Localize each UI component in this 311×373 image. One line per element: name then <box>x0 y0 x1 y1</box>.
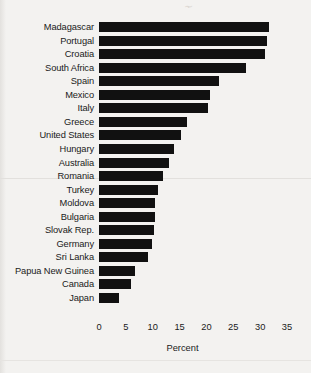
x-axis-title: Percent <box>0 343 311 353</box>
x-tick-label: 10 <box>148 322 158 333</box>
bar-row: Greece <box>0 116 311 129</box>
horizontal-bar-chart: MadagascarPortugalCroatiaSouth AfricaSpa… <box>0 0 311 373</box>
category-label: Slovak Rep. <box>0 224 94 237</box>
bar-row: Canada <box>0 278 311 291</box>
x-tick-label: 15 <box>174 322 184 333</box>
category-label: Mexico <box>0 89 94 102</box>
bar-row: Turkey <box>0 184 311 197</box>
bar <box>99 293 119 303</box>
bar <box>99 198 155 208</box>
category-label: Romania <box>0 170 94 183</box>
bar-row: Spain <box>0 75 311 88</box>
bar <box>99 76 219 86</box>
bar-row: Sri Lanka <box>0 251 311 264</box>
bar <box>99 252 148 262</box>
bar <box>99 225 154 235</box>
category-label: Spain <box>0 75 94 88</box>
bar-row: Australia <box>0 157 311 170</box>
bar-row: Italy <box>0 102 311 115</box>
bar <box>99 158 169 168</box>
category-label: Sri Lanka <box>0 251 94 264</box>
bar <box>99 117 187 127</box>
bar-row: Moldova <box>0 197 311 210</box>
bar-row: Hungary <box>0 143 311 156</box>
bar <box>99 279 131 289</box>
bar <box>99 185 158 195</box>
category-label: Canada <box>0 278 94 291</box>
bar-row: United States <box>0 129 311 142</box>
bar-row: Romania <box>0 170 311 183</box>
x-tick-label: 25 <box>228 322 238 333</box>
bar <box>99 22 269 32</box>
bar-row: Slovak Rep. <box>0 224 311 237</box>
category-label: South Africa <box>0 62 94 75</box>
bar-row: Madagascar <box>0 21 311 34</box>
bar-row: Papua New Guinea <box>0 265 311 278</box>
category-label: United States <box>0 129 94 142</box>
bar <box>99 90 210 100</box>
bar <box>99 103 208 113</box>
category-label: Bulgaria <box>0 211 94 224</box>
x-tick-label: 30 <box>255 322 265 333</box>
bar <box>99 144 174 154</box>
category-label: Germany <box>0 238 94 251</box>
category-label: Hungary <box>0 143 94 156</box>
bar <box>99 49 265 59</box>
bar <box>99 63 246 73</box>
bar <box>99 36 267 46</box>
x-tick-label: 0 <box>96 322 101 333</box>
bar-row: Portugal <box>0 35 311 48</box>
x-tick-label: 35 <box>282 322 292 333</box>
bar-row: Croatia <box>0 48 311 61</box>
bar <box>99 212 155 222</box>
bar-row: Bulgaria <box>0 211 311 224</box>
category-label: Japan <box>0 292 94 305</box>
bar-row: South Africa <box>0 62 311 75</box>
category-label: Greece <box>0 116 94 129</box>
category-label: Italy <box>0 102 94 115</box>
category-label: Portugal <box>0 35 94 48</box>
bar <box>99 171 163 181</box>
bar <box>99 239 152 249</box>
x-tick-label: 20 <box>201 322 211 333</box>
category-label: Madagascar <box>0 21 94 34</box>
bar-row: Mexico <box>0 89 311 102</box>
bar <box>99 266 135 276</box>
scanned-page: ⸟ MadagascarPortugalCroatiaSouth AfricaS… <box>0 0 311 373</box>
bar-row: Germany <box>0 238 311 251</box>
category-label: Australia <box>0 157 94 170</box>
bar-row: Japan <box>0 292 311 305</box>
category-label: Papua New Guinea <box>0 265 94 278</box>
category-label: Croatia <box>0 48 94 61</box>
x-axis-title-text: Percent <box>166 343 198 353</box>
category-label: Turkey <box>0 184 94 197</box>
category-label: Moldova <box>0 197 94 210</box>
x-tick-label: 5 <box>123 322 128 333</box>
bar <box>99 130 181 140</box>
